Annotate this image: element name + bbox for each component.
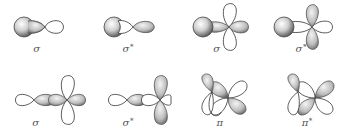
label-sigma-3: σ xyxy=(32,118,39,128)
label-pi-star: π* xyxy=(302,118,313,128)
orbital-figure xyxy=(0,0,341,140)
panel-sigma-star-s-p xyxy=(104,17,154,37)
panel-sigma-p-d xyxy=(16,76,86,125)
panel-pi-d-d xyxy=(202,74,247,116)
panel-sigma-s-p xyxy=(14,17,64,37)
label-sigma-star-1: σ* xyxy=(123,44,134,54)
panel-sigma-s-d xyxy=(193,4,249,51)
label-sigma-1: σ xyxy=(33,44,40,54)
panel-sigma-star-p-d xyxy=(109,76,172,125)
label-pi: π xyxy=(216,118,223,128)
panel-pi-star-d-d xyxy=(288,74,334,115)
label-sigma-2: σ xyxy=(213,44,220,54)
label-sigma-star-3: σ* xyxy=(123,118,134,128)
label-sigma-star-2: σ* xyxy=(296,44,307,54)
orbital-overlap-diagram: σ σ* σ σ* σ σ* π π* xyxy=(0,0,341,140)
